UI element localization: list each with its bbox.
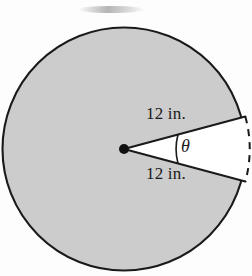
radius-label-bottom: 12 in.	[146, 164, 186, 184]
angle-label-theta: θ	[181, 136, 190, 157]
circle-sector-diagram	[0, 0, 252, 276]
figure-container: 12 in. θ 12 in.	[0, 0, 252, 276]
center-point	[119, 144, 129, 154]
radius-label-top: 12 in.	[146, 104, 186, 124]
